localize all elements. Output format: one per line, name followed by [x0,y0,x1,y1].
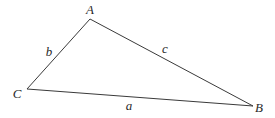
side-label-b: b [46,45,53,58]
side-b-line [27,19,90,89]
vertex-label-b: B [255,101,263,114]
vertex-label-c: C [13,87,22,100]
triangle-diagram: A B C a b c [0,0,275,118]
vertex-label-a: A [86,3,94,16]
side-a-line [27,89,253,106]
side-c-line [90,19,253,106]
triangle-shape [0,0,275,118]
side-label-a: a [126,99,133,112]
side-label-c: c [162,42,168,55]
